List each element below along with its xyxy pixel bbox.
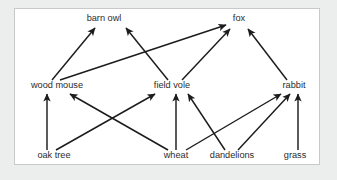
food-web-diagram: barn owlfoxwood mousefield volerabbitoak… — [0, 0, 337, 180]
node-label-wood-mouse: wood mouse — [30, 80, 83, 90]
food-chain-arrow-oak-to-fieldvole — [56, 94, 155, 150]
food-chain-arrow-rabbit-to-fox — [248, 29, 287, 80]
food-chain-arrow-dandelions-to-rabbit — [238, 94, 290, 150]
node-label-fox: fox — [233, 13, 246, 23]
node-label-oak-tree: oak tree — [37, 150, 70, 160]
node-label-barn-owl: barn owl — [87, 13, 122, 23]
food-chain-arrow-woodmouse-to-barnowl — [52, 28, 95, 80]
node-label-grass: grass — [284, 150, 307, 160]
food-web-labels: barn owlfoxwood mousefield volerabbitoak… — [30, 13, 307, 160]
node-label-field-vole: field vole — [154, 80, 190, 90]
node-label-dandelions: dandelions — [210, 150, 255, 160]
food-chain-arrow-dandelions-to-fieldvole — [188, 94, 225, 150]
food-chain-arrow-woodmouse-to-fox — [60, 25, 226, 80]
food-chain-arrow-wheat-to-rabbit — [186, 94, 281, 150]
food-chain-arrow-fieldvole-to-barnowl — [126, 28, 168, 80]
node-label-rabbit: rabbit — [283, 80, 306, 90]
node-label-wheat: wheat — [163, 150, 189, 160]
food-chain-arrow-wheat-to-woodmouse — [70, 94, 168, 150]
food-web-screenshot: barn owlfoxwood mousefield volerabbitoak… — [0, 0, 337, 180]
